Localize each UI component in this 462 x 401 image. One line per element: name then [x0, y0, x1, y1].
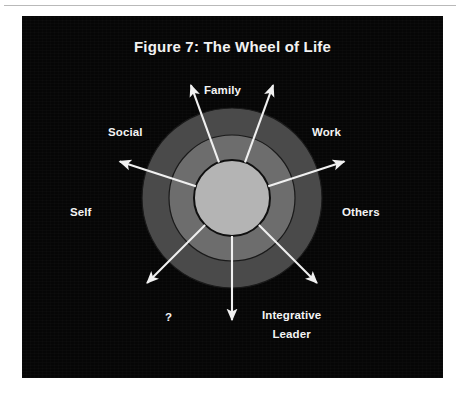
wheel-label-others: Others — [342, 206, 380, 218]
figure-panel: Figure 7: The Wheel of Life — [22, 16, 443, 378]
wheel-label-self: Self — [70, 206, 92, 218]
wheel-label-integrative-leader: Integrative Leader — [262, 306, 321, 344]
wheel-label-integrative-line1: Integrative — [262, 306, 321, 325]
wheel-label-work: Work — [312, 126, 341, 138]
inner-circle — [194, 160, 270, 236]
figure-root: Figure 7: The Wheel of Life — [0, 0, 462, 401]
wheel-label-social: Social — [108, 126, 142, 138]
wheel-of-life-diagram — [22, 16, 443, 378]
wheel-label-integrative-line2: Leader — [262, 325, 321, 344]
wheel-label-question: ? — [165, 311, 172, 323]
page-top-rule — [4, 5, 456, 6]
wheel-label-family: Family — [204, 84, 241, 96]
